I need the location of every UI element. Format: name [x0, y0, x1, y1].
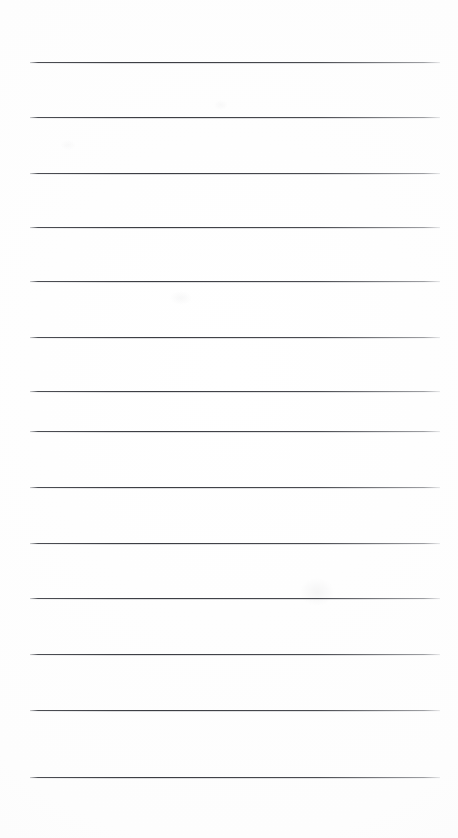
scanned-page — [0, 0, 458, 838]
ruled-line — [30, 710, 440, 711]
ruled-line — [30, 598, 440, 599]
ruled-line — [30, 543, 440, 544]
faint-smudge-upper — [170, 291, 192, 305]
ruled-line — [30, 227, 440, 228]
ruled-line — [30, 173, 440, 174]
ruled-line — [30, 391, 440, 392]
ruled-line — [30, 777, 440, 778]
faint-smudge-mid — [214, 100, 228, 110]
faint-smudge-edge — [60, 140, 76, 150]
ruled-line — [30, 281, 440, 282]
ruled-line — [30, 487, 440, 488]
ruled-line — [30, 117, 440, 118]
ruled-line — [30, 654, 440, 655]
ruled-line — [30, 62, 440, 63]
paper-background — [0, 0, 458, 838]
faint-smudge-lower — [300, 578, 334, 606]
ruled-line — [30, 337, 440, 338]
ruled-line — [30, 431, 440, 432]
